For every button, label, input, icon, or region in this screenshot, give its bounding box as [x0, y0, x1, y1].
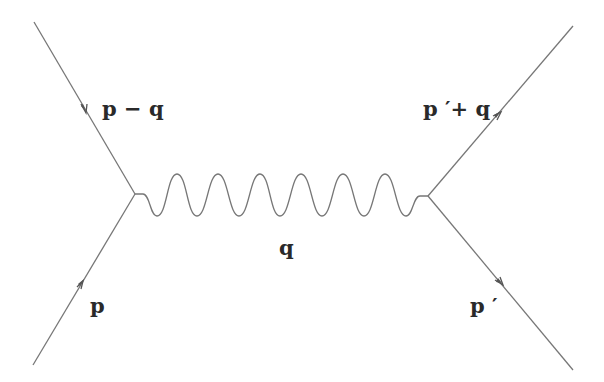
label-propagator: q — [279, 237, 294, 258]
label-outgoing-right: p ′+ q — [423, 98, 490, 119]
arrow-icon-p-minus-q — [81, 104, 87, 113]
label-outgoing-left: p − q — [102, 98, 164, 119]
diagram-lines — [0, 0, 604, 382]
label-incoming-left: p — [90, 295, 105, 316]
feynman-diagram: p − q p ′+ q q p p ′ — [0, 0, 604, 382]
label-incoming-right: p ′ — [470, 295, 498, 316]
photon-propagator — [135, 174, 428, 216]
